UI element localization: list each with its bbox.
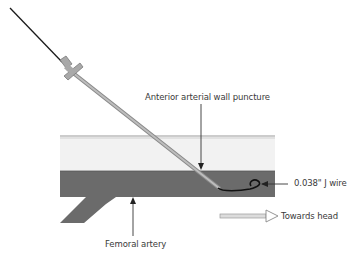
tissue-layer — [60, 137, 275, 171]
wire-label: 0.038" J wire — [294, 178, 347, 188]
puncture-label: Anterior arterial wall puncture — [145, 92, 270, 102]
direction-label: Towards head — [281, 211, 338, 221]
guidewire-proximal — [10, 8, 62, 62]
artery-label: Femoral artery — [105, 239, 166, 249]
femoral-access-diagram — [0, 0, 353, 260]
direction-arrow — [220, 210, 278, 222]
